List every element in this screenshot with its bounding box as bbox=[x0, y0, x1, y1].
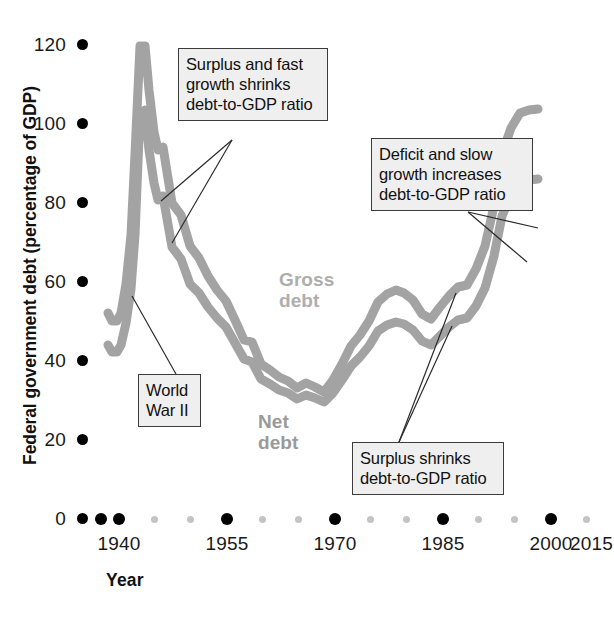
leader-line-surplus-fast-2 bbox=[172, 140, 232, 243]
callout-surplus-shrinks: Surplus shrinks debt-to-GDP ratio bbox=[352, 442, 504, 495]
callout-world-war-ii: World War II bbox=[138, 374, 201, 427]
callout-surplus-fast-growth: Surplus and fast growth shrinks debt-to-… bbox=[178, 48, 328, 121]
leader-line-wwii bbox=[132, 296, 176, 374]
chart-figure: Federal government debt (percentage of G… bbox=[0, 0, 614, 621]
callout-deficit-slow-growth: Deficit and slow growth increases debt-t… bbox=[371, 138, 533, 211]
leader-line-surplus-fast-1 bbox=[161, 140, 232, 201]
series-label-net-debt: Net debt bbox=[258, 411, 299, 453]
series-label-gross-debt: Gross debt bbox=[279, 269, 334, 311]
